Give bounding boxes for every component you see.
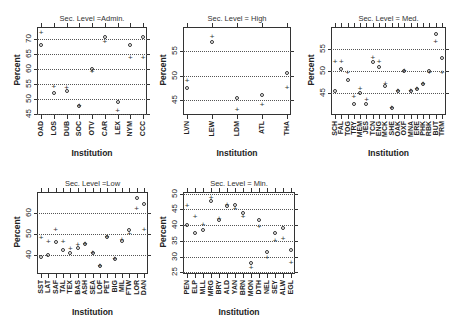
data-point-plus: + [37, 29, 45, 37]
x-tick-label: THA [283, 121, 290, 147]
x-tick-mark [212, 115, 213, 119]
x-tick-label: ALD [223, 280, 230, 306]
y-axis-label: Percent [158, 50, 168, 90]
gridline [183, 209, 295, 210]
x-tick-mark [423, 115, 424, 119]
x-tick-mark [54, 115, 55, 119]
x-tick-mark [187, 188, 188, 192]
data-point-circle [396, 89, 400, 93]
y-tick-mark [34, 213, 37, 214]
y-tick-mark [147, 69, 150, 70]
y-tick-mark [34, 84, 37, 85]
x-tick-mark [392, 23, 393, 27]
gridline [37, 213, 148, 214]
y-tick-label: 55 [318, 41, 327, 57]
y-tick-mark [34, 69, 37, 70]
y-tick-label: 45 [318, 85, 327, 101]
x-tick-mark [251, 188, 252, 192]
panel-title: Sec. Level = Med. [331, 14, 446, 23]
y-tick-mark [295, 209, 298, 210]
x-tick-mark [235, 188, 236, 192]
data-point-circle [193, 231, 197, 235]
x-tick-mark [79, 23, 80, 27]
x-tick-mark [195, 274, 196, 278]
x-tick-label: LEW [208, 121, 215, 147]
x-tick-mark [251, 274, 252, 278]
x-tick-label: SOC [75, 121, 82, 147]
y-tick-label: 40 [170, 217, 179, 233]
plot-area [183, 27, 291, 115]
data-point-circle [371, 60, 375, 64]
y-tick-label: 55 [24, 75, 33, 91]
gridline [183, 194, 295, 195]
y-tick-label: 55 [170, 43, 179, 59]
data-point-circle [440, 56, 444, 60]
x-tick-label: DAN [140, 280, 147, 306]
x-tick-label: DUB [63, 121, 70, 147]
x-tick-mark [212, 23, 213, 27]
x-axis-label: Institution [183, 148, 291, 158]
x-tick-label: FTW [125, 280, 132, 306]
data-point-plus: + [114, 107, 122, 115]
x-tick-mark [417, 115, 418, 119]
x-tick-mark [129, 274, 130, 278]
data-point-circle [65, 89, 69, 93]
data-point-circle [98, 264, 102, 268]
data-point-circle [39, 43, 43, 47]
data-point-plus: + [50, 83, 58, 91]
x-tick-label: MON [247, 280, 254, 306]
x-tick-mark [63, 188, 64, 192]
data-point-plus: + [52, 226, 60, 234]
x-tick-label: LVN [183, 121, 190, 147]
x-tick-mark [411, 115, 412, 119]
x-tick-mark [78, 188, 79, 192]
data-point-plus: + [140, 226, 148, 234]
x-tick-mark [48, 274, 49, 278]
x-tick-mark [262, 115, 263, 119]
x-tick-mark [137, 188, 138, 192]
data-point-plus: + [233, 106, 241, 114]
y-tick-mark [291, 51, 294, 52]
x-tick-mark [85, 188, 86, 192]
x-tick-label: NEL [263, 280, 270, 306]
y-tick-label: 50 [24, 90, 33, 106]
x-tick-mark [70, 274, 71, 278]
x-tick-mark [429, 23, 430, 27]
x-tick-mark [144, 274, 145, 278]
y-tick-mark [34, 255, 37, 256]
x-tick-mark [41, 188, 42, 192]
x-tick-mark [107, 188, 108, 192]
y-tick-mark [446, 93, 449, 94]
data-point-plus: + [139, 54, 147, 62]
x-tick-mark [392, 115, 393, 119]
x-tick-label: LAT [44, 280, 51, 306]
gridline [331, 93, 446, 94]
x-tick-label: MLL [199, 280, 206, 306]
y-tick-mark [328, 71, 331, 72]
y-tick-mark [180, 272, 183, 273]
x-tick-mark [93, 188, 94, 192]
x-tick-mark [187, 115, 188, 119]
x-tick-mark [143, 23, 144, 27]
y-tick-mark [180, 257, 183, 258]
y-tick-mark [148, 255, 151, 256]
x-tick-mark [373, 115, 374, 119]
data-point-plus: + [44, 238, 52, 246]
x-tick-mark [118, 23, 119, 27]
data-point-plus: + [263, 254, 271, 262]
data-point-plus: + [344, 69, 352, 77]
y-tick-mark [34, 99, 37, 100]
data-point-circle [415, 87, 419, 91]
x-tick-mark [275, 274, 276, 278]
x-tick-mark [67, 23, 68, 27]
x-tick-mark [267, 188, 268, 192]
data-point-circle [201, 228, 205, 232]
y-tick-label: 45 [170, 201, 179, 217]
data-point-plus: + [183, 77, 191, 85]
panel-title: Sec. Level =Admin. [37, 14, 147, 23]
y-tick-mark [180, 51, 183, 52]
data-point-plus: + [183, 202, 191, 210]
data-point-circle [409, 89, 413, 93]
data-point-plus: + [350, 93, 358, 101]
x-tick-mark [275, 188, 276, 192]
